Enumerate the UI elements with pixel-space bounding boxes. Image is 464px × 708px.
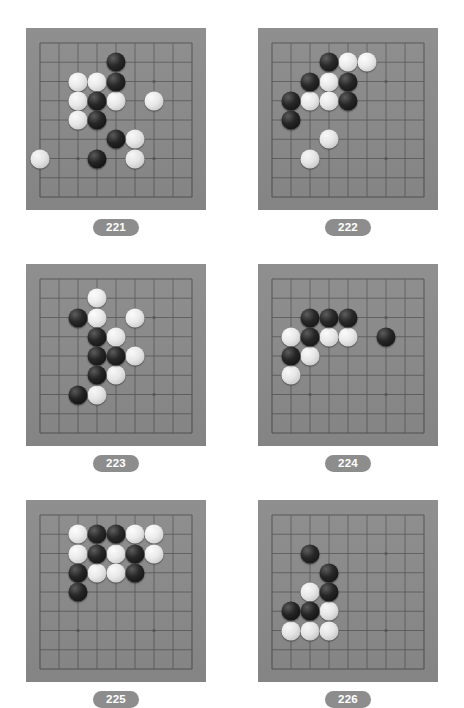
white-stone [301, 149, 320, 168]
white-stone [107, 91, 126, 110]
white-stone [88, 563, 107, 582]
black-stone [320, 53, 339, 72]
black-stone [339, 308, 358, 327]
diagram-224: 224 [232, 236, 464, 472]
go-board[interactable] [26, 500, 206, 682]
black-stone [301, 544, 320, 563]
stone-layer [258, 28, 438, 212]
go-board[interactable] [26, 264, 206, 446]
black-stone [126, 544, 145, 563]
go-board[interactable] [258, 500, 438, 682]
white-stone [339, 53, 358, 72]
black-stone [320, 563, 339, 582]
white-stone [126, 308, 145, 327]
stone-layer [26, 28, 206, 212]
go-board[interactable] [258, 28, 438, 210]
white-stone [145, 544, 164, 563]
diagram-caption: 224 [325, 455, 371, 472]
white-stone [282, 621, 301, 640]
diagram-number-badge: 224 [325, 455, 371, 472]
white-stone [320, 91, 339, 110]
black-stone [88, 149, 107, 168]
white-stone [126, 525, 145, 544]
white-stone [145, 525, 164, 544]
diagram-number-badge: 222 [325, 219, 371, 236]
diagram-caption: 226 [325, 691, 371, 708]
black-stone [301, 308, 320, 327]
white-stone [320, 72, 339, 91]
black-stone [377, 327, 396, 346]
white-stone [69, 91, 88, 110]
diagram-caption: 221 [93, 219, 139, 236]
white-stone [107, 544, 126, 563]
white-stone [320, 130, 339, 149]
diagram-caption: 225 [93, 691, 139, 708]
black-stone [69, 308, 88, 327]
diagram-222: 222 [232, 0, 464, 236]
diagram-caption: 222 [325, 219, 371, 236]
black-stone [282, 91, 301, 110]
black-stone [320, 308, 339, 327]
diagram-number-badge: 221 [93, 219, 139, 236]
white-stone [126, 130, 145, 149]
black-stone [88, 91, 107, 110]
white-stone [88, 385, 107, 404]
black-stone [69, 583, 88, 602]
white-stone [320, 621, 339, 640]
white-stone [88, 308, 107, 327]
white-stone [107, 366, 126, 385]
black-stone [301, 72, 320, 91]
white-stone [69, 525, 88, 544]
black-stone [107, 72, 126, 91]
black-stone [282, 111, 301, 130]
white-stone [358, 53, 377, 72]
white-stone [69, 111, 88, 130]
black-stone [107, 525, 126, 544]
black-stone [88, 347, 107, 366]
diagram-caption: 223 [93, 455, 139, 472]
black-stone [282, 347, 301, 366]
diagram-number-badge: 226 [325, 691, 371, 708]
diagram-223: 223 [0, 236, 232, 472]
diagram-225: 225 [0, 472, 232, 708]
white-stone [145, 91, 164, 110]
white-stone [107, 327, 126, 346]
diagram-221: 221 [0, 0, 232, 236]
black-stone [88, 544, 107, 563]
stone-layer [26, 500, 206, 684]
diagram-number-badge: 223 [93, 455, 139, 472]
black-stone [301, 327, 320, 346]
diagram-number-badge: 225 [93, 691, 139, 708]
white-stone [69, 544, 88, 563]
stone-layer [26, 264, 206, 448]
white-stone [107, 563, 126, 582]
stone-layer [258, 500, 438, 684]
black-stone [88, 366, 107, 385]
black-stone [88, 111, 107, 130]
diagram-grid: 221222223224225226 [0, 0, 464, 708]
white-stone [301, 583, 320, 602]
go-board[interactable] [258, 264, 438, 446]
white-stone [88, 72, 107, 91]
white-stone [320, 327, 339, 346]
go-board[interactable] [26, 28, 206, 210]
stone-layer [258, 264, 438, 448]
black-stone [88, 525, 107, 544]
diagram-226: 226 [232, 472, 464, 708]
white-stone [69, 72, 88, 91]
white-stone [126, 149, 145, 168]
white-stone [320, 602, 339, 621]
white-stone [126, 347, 145, 366]
white-stone [301, 91, 320, 110]
black-stone [69, 563, 88, 582]
black-stone [320, 583, 339, 602]
white-stone [31, 149, 50, 168]
black-stone [339, 91, 358, 110]
white-stone [339, 327, 358, 346]
black-stone [126, 563, 145, 582]
white-stone [301, 347, 320, 366]
white-stone [282, 366, 301, 385]
black-stone [282, 602, 301, 621]
white-stone [301, 621, 320, 640]
black-stone [301, 602, 320, 621]
